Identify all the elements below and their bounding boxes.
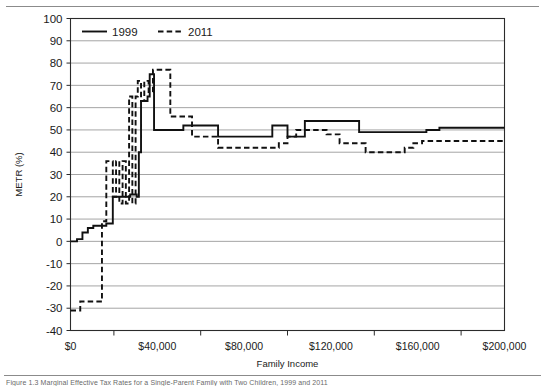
y-axis-tick-label: 100: [43, 13, 62, 25]
y-axis-tick-label: -20: [46, 280, 63, 292]
y-axis-tick-label: 80: [50, 57, 63, 69]
x-axis-tick-label: $200,000: [483, 340, 527, 352]
y-axis-tick-label: 10: [50, 213, 63, 225]
y-axis-tick-label: -10: [46, 258, 63, 270]
y-axis-tick-label: 70: [50, 80, 63, 92]
x-axis-tick-label: $0: [65, 340, 77, 352]
x-axis-tick-label: $80,000: [225, 340, 263, 352]
y-axis-tick-label: 30: [50, 169, 63, 181]
y-axis-tick-label: 40: [50, 146, 63, 158]
y-axis-tick-label: 0: [56, 236, 62, 248]
x-axis-tick-label: $120,000: [309, 340, 353, 352]
legend-label-2011: 2011: [188, 26, 213, 38]
figure-container: 1009080706050403020100-10-20-30-40 $0$40…: [0, 0, 545, 390]
figure-caption: Figure 1.3 Marginal Effective Tax Rates …: [6, 379, 526, 386]
figure-top-rule: [6, 6, 539, 7]
y-axis-tick-label: 20: [50, 191, 63, 203]
x-axis-tick-label: $160,000: [396, 340, 440, 352]
y-axis-tick-label: 50: [50, 124, 63, 136]
series-layer: [71, 70, 505, 311]
y-axis-title: METR (%): [13, 152, 24, 196]
figure-bottom-rule: [4, 375, 541, 376]
y-axis-tick-label: 60: [50, 102, 63, 114]
series-line-2011: [71, 70, 505, 311]
x-axis-ticks: [114, 331, 461, 336]
y-axis-tick-label: 90: [50, 35, 63, 47]
x-axis-tick-label: $40,000: [138, 340, 176, 352]
x-axis-title: Family Income: [257, 358, 319, 369]
chart-legend: 1999 2011: [82, 26, 213, 38]
metr-chart: 1009080706050403020100-10-20-30-40 $0$40…: [0, 0, 545, 375]
y-axis-tick-label: -40: [46, 325, 63, 337]
legend-label-1999: 1999: [112, 26, 138, 38]
x-axis-tick-labels: $0$40,000$80,000$120,000$160,000$200,000: [65, 340, 527, 352]
y-axis-tick-label: -30: [46, 302, 63, 314]
y-axis-tick-labels: 1009080706050403020100-10-20-30-40: [43, 13, 62, 337]
